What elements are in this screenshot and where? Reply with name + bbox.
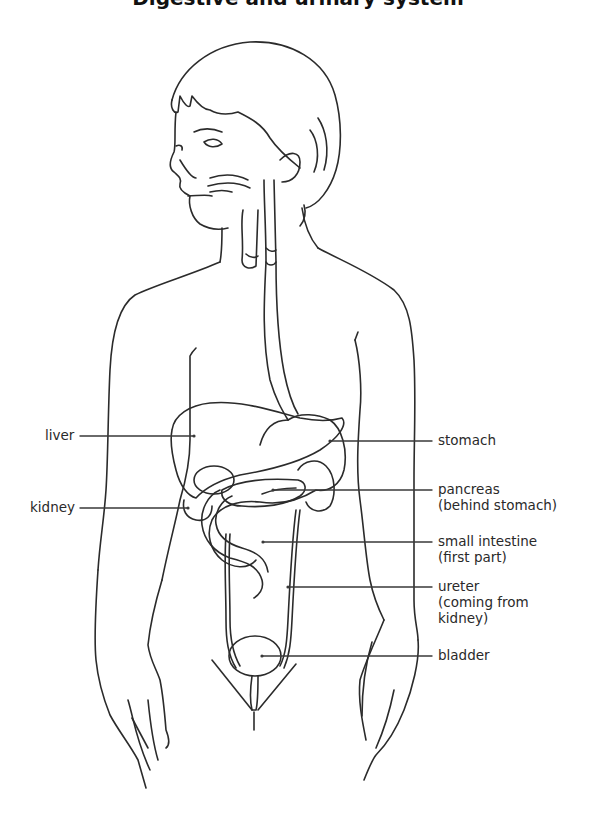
pancreas-duct: [262, 488, 296, 494]
stomach-upper-curve: [260, 420, 288, 445]
label-liver: liver: [45, 427, 74, 444]
label-small-intestine-note: (first part): [438, 549, 507, 566]
label-pancreas: pancreas: [438, 481, 500, 498]
label-ureter-note-2: kidney): [438, 610, 488, 627]
ureter-left-inner: [229, 534, 240, 666]
kidney-right-drawing: [298, 461, 334, 511]
label-bladder: bladder: [438, 647, 490, 664]
label-ureter: ureter: [438, 578, 479, 595]
label-kidney: kidney: [30, 499, 75, 516]
body-illustration: [0, 0, 596, 820]
label-pancreas-note: (behind stomach): [438, 497, 557, 514]
label-small-intestine: small intestine: [438, 533, 537, 550]
pelvis-line-right: [258, 664, 296, 710]
urethra-drawing: [251, 676, 259, 710]
liver-drawing: [171, 402, 344, 498]
label-ureter-note-1: (coming from: [438, 594, 529, 611]
head-drawing: [170, 42, 340, 262]
kidney-left-lower: [184, 500, 213, 520]
pelvis-line-left: [212, 660, 252, 710]
esophagus-drawing: [242, 180, 298, 420]
kidney-left-drawing: [194, 466, 234, 494]
label-stomach: stomach: [438, 432, 496, 449]
